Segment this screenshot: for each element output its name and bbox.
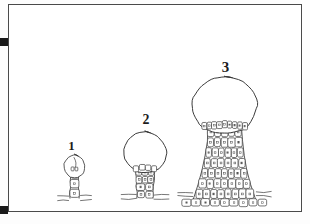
stalk-cell [214, 138, 220, 147]
collar-cell [238, 122, 243, 129]
basal-cell [201, 199, 210, 206]
collar-cell [139, 164, 145, 170]
stalk-cell [215, 169, 221, 178]
substrate-line [178, 196, 193, 197]
stalk-cell [221, 179, 228, 188]
stalk-cell [221, 138, 228, 147]
stalk-cell [236, 179, 243, 189]
substrate-line [81, 195, 92, 196]
stalk-cell [214, 179, 221, 188]
collar-cell [202, 122, 207, 129]
stalk-cell [212, 148, 218, 157]
basal-cell [249, 199, 257, 206]
stalk-cell [148, 176, 154, 182]
collar-cell [71, 167, 74, 171]
stalk-cell [211, 189, 217, 198]
stalk-cell [199, 179, 207, 188]
figure-plate: 123 [0, 0, 310, 224]
stalk-cell [231, 158, 238, 168]
basal-cell [182, 199, 191, 206]
stalk-cell [146, 191, 154, 198]
collar-cell [212, 122, 217, 129]
stalk-cell [225, 189, 231, 199]
collar-cell [145, 165, 150, 170]
collar-cell [217, 122, 223, 129]
stalk-cell [217, 190, 224, 199]
collar-cell [133, 166, 138, 172]
stalk-cell [232, 189, 239, 199]
substrate-line [58, 200, 69, 201]
stalk-cell [70, 179, 79, 187]
stalk-cell [231, 148, 236, 158]
figure-number-label-1: 1 [68, 139, 74, 153]
stalk-cell [228, 179, 236, 188]
stalk-cell [142, 176, 147, 182]
stalk-cell [243, 179, 250, 188]
stalk-cell [221, 169, 227, 178]
stalk-cell [206, 148, 212, 158]
collar-cell [207, 122, 211, 129]
collar-cell [152, 166, 157, 172]
stalk-cell [211, 159, 218, 168]
collar-cell [222, 121, 227, 128]
basal-cell [221, 199, 230, 207]
basal-cell [239, 199, 248, 207]
basal-cell [210, 199, 219, 206]
stalk-cell [146, 184, 153, 191]
stalk-cell [203, 189, 210, 199]
collar-cell [227, 121, 231, 128]
bottom-left-crop-mark [0, 206, 8, 214]
stalk-cell [208, 169, 215, 178]
collar-cell [232, 122, 237, 129]
substrate-line [81, 200, 92, 201]
stalk-cell [207, 179, 214, 188]
top-left-crop-mark [0, 38, 8, 46]
basal-cell [229, 199, 238, 206]
stalk-cell [246, 189, 254, 198]
plate-border-frame: 123 [8, 4, 302, 212]
figure-number-label-3: 3 [222, 59, 229, 75]
stalk-cell [217, 158, 224, 167]
stalk-cell [228, 138, 236, 147]
stalk-cell [207, 138, 213, 147]
substrate-line [256, 195, 271, 196]
stalk-cell [225, 158, 231, 167]
collar-cell [75, 167, 78, 171]
stalk-cell [196, 189, 203, 198]
stalk-cell [239, 189, 246, 199]
substrate-line [121, 198, 136, 199]
stalk-cell [136, 184, 144, 191]
stalk-cell [239, 158, 245, 167]
stalk-cell [202, 169, 208, 178]
stalk-cell [70, 189, 79, 197]
stalk-cell [228, 169, 234, 178]
figure-number-label-2: 2 [143, 112, 150, 127]
stalk-cell [225, 148, 231, 157]
basal-cell [191, 199, 200, 206]
stalk-cell [137, 191, 144, 197]
substrate-line [154, 194, 169, 195]
stalk-cell [204, 158, 210, 168]
basal-cell [258, 199, 267, 206]
line-drawing-canvas: 123 [9, 5, 301, 211]
collar-cell [243, 123, 248, 130]
stalk-cell [234, 169, 241, 178]
substrate-line [256, 191, 271, 192]
stalk-cell [241, 168, 247, 178]
stalk-cell [235, 137, 242, 146]
stalk-cell [136, 176, 142, 183]
stalk-cell [218, 148, 224, 157]
stalk-cell [237, 148, 243, 157]
